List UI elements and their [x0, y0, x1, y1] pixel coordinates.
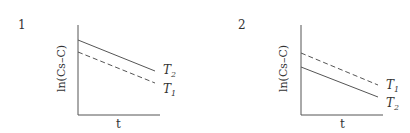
panel-2-y-label: ln(Cs–C): [277, 45, 290, 92]
panel-2-line-t2: [301, 67, 378, 97]
panel-1-y-label: ln(Cs–C): [55, 45, 68, 92]
panel-1-label-t1: T1: [163, 82, 176, 98]
panel-1-line-t1: [78, 52, 155, 83]
panel-2-x-label: t: [340, 117, 345, 131]
panel-2-line-t1: [301, 53, 378, 85]
panel-2-label-t1: T1: [386, 78, 399, 94]
panel-1-x-label: t: [116, 117, 121, 131]
panel-1-line-t2: [78, 40, 155, 71]
panel-2-label-t2: T2: [386, 96, 399, 112]
panel-1-label-t2: T2: [163, 63, 176, 79]
